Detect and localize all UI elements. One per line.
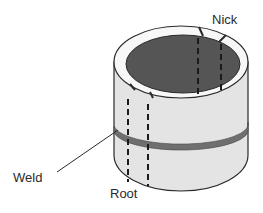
- pipe-weld-diagram: Nick Weld Root: [0, 0, 263, 213]
- weld-label: Weld: [13, 170, 42, 185]
- nick-label: Nick: [212, 12, 238, 27]
- root-label: Root: [110, 186, 138, 201]
- weld-leader-line: [57, 130, 118, 172]
- pipe-interior: [126, 35, 240, 93]
